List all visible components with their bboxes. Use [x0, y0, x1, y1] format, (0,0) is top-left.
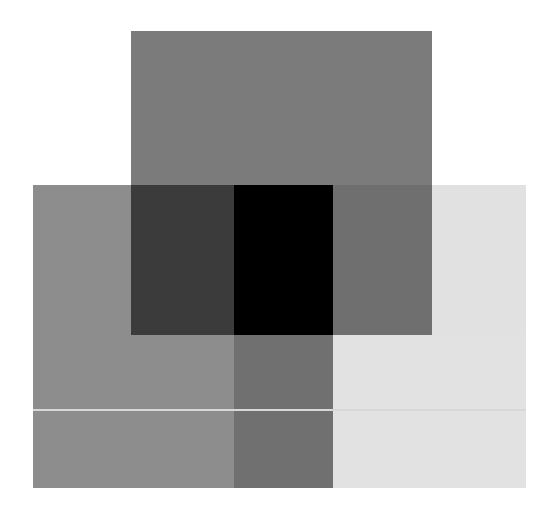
light-lower-right: [333, 335, 526, 488]
lower-left-region: [33, 185, 131, 488]
dark-overlap: [131, 185, 234, 335]
top-rectangle: [131, 31, 432, 185]
horizontal-light-line: [33, 409, 526, 411]
lower-left-under-top: [131, 335, 234, 488]
light-right-region: [432, 185, 526, 335]
mid-grey-overlap: [333, 185, 432, 335]
middle-column-lower: [234, 335, 333, 488]
black-overlap: [234, 185, 333, 335]
